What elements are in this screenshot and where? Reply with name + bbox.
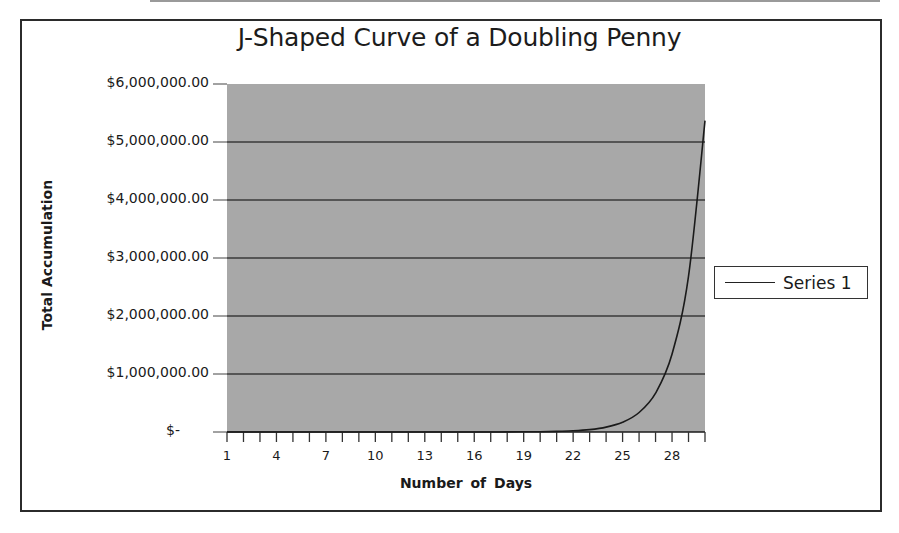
y-tick-label: $4,000,000.00 (107, 190, 209, 206)
x-tick-label: 22 (565, 448, 582, 463)
x-tick-label: 4 (272, 448, 280, 463)
x-tick-label: 1 (223, 448, 231, 463)
x-tick-label: 13 (417, 448, 434, 463)
y-axis-ticks (213, 84, 227, 432)
x-tick-label: 19 (515, 448, 532, 463)
x-tick-label: 7 (322, 448, 330, 463)
y-tick-label: $1,000,000.00 (107, 364, 209, 380)
legend-label: Series 1 (783, 273, 852, 293)
y-tick-label: $- (166, 422, 180, 438)
legend: Series 1 (714, 266, 868, 299)
y-tick-label: $6,000,000.00 (107, 74, 209, 90)
x-axis-ticks (227, 432, 705, 442)
y-tick-label: $3,000,000.00 (107, 248, 209, 264)
y-tick-label: $2,000,000.00 (107, 306, 209, 322)
x-axis-title: Number of Days (227, 475, 705, 491)
x-tick-label: 28 (664, 448, 681, 463)
x-tick-label: 25 (614, 448, 631, 463)
legend-line-swatch-icon (725, 282, 775, 283)
y-tick-label: $5,000,000.00 (107, 132, 209, 148)
x-tick-label: 16 (466, 448, 483, 463)
x-tick-label: 10 (367, 448, 384, 463)
y-axis-title: Total Accumulation (39, 180, 55, 330)
